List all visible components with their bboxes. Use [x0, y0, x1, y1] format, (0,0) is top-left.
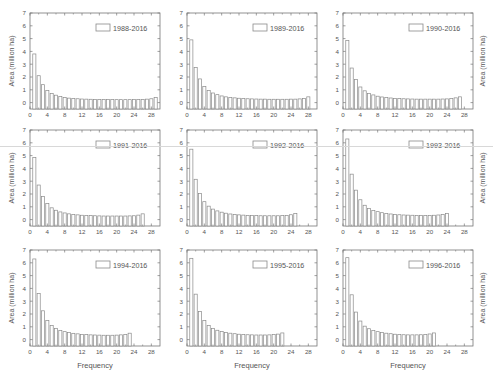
legend-label: 1991-2016 [113, 141, 147, 150]
legend-label: 1996-2016 [426, 261, 460, 270]
x-tick-label: 16 [253, 348, 260, 355]
y-tick-label: 4 [180, 48, 184, 55]
y-tick-label: 2 [336, 310, 340, 317]
x-tick-label: 8 [63, 348, 67, 355]
x-tick-label: 20 [113, 228, 120, 235]
histogram-bar [50, 326, 53, 346]
y-tick-label: 4 [23, 165, 27, 172]
histogram-bar [59, 212, 62, 226]
histogram-bar [259, 335, 262, 346]
x-tick-label: 24 [444, 348, 451, 355]
histogram-panel-1996-2016: 0123456704812162024281996-2016Area (mill… [336, 246, 487, 370]
x-tick-label: 24 [131, 348, 138, 355]
x-tick-label: 4 [203, 348, 207, 355]
histogram-bar [367, 208, 370, 226]
legend-label: 1988-2016 [113, 24, 147, 33]
x-tick-label: 12 [236, 348, 243, 355]
histogram-bar [37, 185, 40, 226]
legend-swatch [409, 24, 423, 31]
histogram-bar [224, 332, 227, 346]
histogram-panel-1991-2016: 0123456704812162024281991-2016Area (mill… [8, 126, 160, 235]
y-axis-label: Area (million ha) [479, 273, 487, 324]
y-tick-label: 7 [23, 126, 27, 133]
histogram-bar [119, 216, 122, 226]
histogram-bar [389, 98, 392, 109]
x-tick-label: 8 [220, 228, 224, 235]
histogram-bar [102, 216, 105, 226]
histogram-bar [72, 333, 75, 346]
histogram-bar [281, 333, 284, 346]
legend: 1990-2016 [409, 24, 460, 33]
y-tick-label: 3 [336, 178, 340, 185]
histogram-bar [111, 335, 114, 346]
legend: 1991-2016 [96, 141, 147, 150]
histogram-bar [268, 99, 271, 109]
x-tick-label: 20 [270, 348, 277, 355]
x-tick-label: 24 [131, 111, 138, 118]
y-axis-label: Area (million ha) [8, 36, 16, 87]
y-tick-label: 7 [336, 246, 340, 253]
histogram-bar [294, 213, 297, 226]
histogram-bar [372, 95, 375, 109]
y-tick-label: 1 [23, 86, 27, 93]
legend-swatch [253, 261, 267, 268]
legend: 1994-2016 [96, 261, 147, 270]
legend: 1988-2016 [96, 24, 147, 33]
histogram-bar [389, 334, 392, 346]
histogram-bar [359, 87, 362, 109]
histogram-bar [207, 90, 210, 109]
histogram-bar [372, 330, 375, 346]
x-tick-label: 20 [426, 348, 433, 355]
histogram-bar [402, 335, 405, 346]
histogram-bar [402, 215, 405, 226]
y-tick-label: 1 [180, 86, 184, 93]
y-tick-label: 6 [336, 259, 340, 266]
y-tick-label: 1 [23, 203, 27, 210]
x-tick-label: 28 [461, 111, 468, 118]
histogram-bar [54, 95, 57, 109]
histogram-bar [119, 335, 122, 346]
x-tick-label: 8 [63, 228, 67, 235]
histogram-bar [363, 91, 366, 109]
histogram-bar [59, 96, 62, 109]
histogram-bar [276, 99, 279, 109]
x-tick-label: 24 [444, 228, 451, 235]
histogram-bar [294, 99, 297, 109]
histogram-bar [106, 335, 109, 346]
x-tick-label: 8 [63, 111, 67, 118]
legend-swatch [96, 261, 110, 268]
histogram-bar [59, 330, 62, 346]
histogram-bar [190, 149, 193, 226]
histogram-bar [46, 320, 49, 346]
y-tick-label: 5 [336, 35, 340, 42]
x-tick-label: 12 [236, 111, 243, 118]
histogram-bar [385, 98, 388, 109]
histogram-bar [242, 334, 245, 346]
x-tick-label: 20 [113, 348, 120, 355]
x-tick-label: 8 [376, 228, 380, 235]
x-tick-label: 12 [392, 111, 399, 118]
histogram-bar [432, 215, 435, 226]
histogram-bar [111, 100, 114, 109]
histogram-bar [128, 216, 131, 226]
x-tick-label: 4 [203, 228, 207, 235]
histogram-bar [346, 139, 349, 226]
y-tick-label: 6 [23, 259, 27, 266]
x-tick-label: 20 [270, 111, 277, 118]
histogram-bar [415, 99, 418, 109]
y-tick-label: 5 [180, 35, 184, 42]
y-tick-label: 2 [23, 310, 27, 317]
histogram-bar [85, 99, 88, 109]
y-tick-label: 0 [23, 216, 27, 223]
y-axis-label: Area (million ha) [479, 36, 487, 87]
x-tick-label: 16 [409, 228, 416, 235]
histogram-bar [72, 214, 75, 226]
x-tick-label: 0 [28, 111, 32, 118]
histogram-bar [419, 215, 422, 226]
histogram-bar [194, 179, 197, 226]
histogram-bar [380, 97, 383, 109]
histogram-bar [406, 99, 409, 109]
x-tick-label: 28 [148, 228, 155, 235]
histogram-bar [432, 99, 435, 109]
y-tick-label: 0 [180, 216, 184, 223]
